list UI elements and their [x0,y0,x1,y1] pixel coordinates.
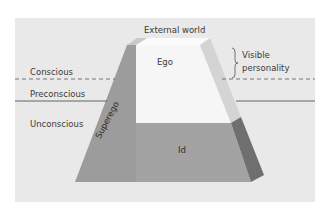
id-label: Id [178,146,186,155]
ego-top-face [136,38,210,45]
conscious-label: Conscious [30,68,73,77]
id-face [136,123,251,182]
preconscious-label: Preconscious [30,90,85,99]
personality-structure-diagram: External world Ego Visible personality C… [0,0,327,212]
visible-personality-label-line2: personality [242,64,289,73]
visible-personality-label-line1: Visible [242,51,270,60]
external-world-label: External world [144,26,205,35]
unconscious-label: Unconscious [30,120,83,129]
ego-label: Ego [157,58,173,67]
